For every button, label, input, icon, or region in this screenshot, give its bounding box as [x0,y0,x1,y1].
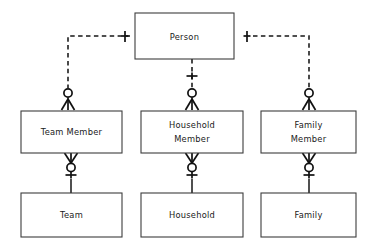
cardinality-zero-or-many-marker-team-member [62,89,75,110]
entity-label-person: Person [170,32,199,42]
entity-box-household-member [141,111,243,153]
entity-label-household: Household [169,210,215,220]
cardinality-zero-or-many-marker-team-member-bottom [65,153,78,172]
entity-household-member[interactable]: Household Member [141,111,243,153]
diagram-canvas: Person Team Member Household Member Fami… [0,0,377,249]
cardinality-one-marker-family [304,172,315,179]
relationship-team-member-team[interactable] [65,153,78,193]
entity-label-household-member-line2: Member [174,134,210,144]
cardinality-one-marker-household [187,172,198,179]
entity-label-family: Family [294,210,322,220]
entity-label-household-member-line1: Household [169,120,215,130]
relationship-person-household-member[interactable] [186,59,199,110]
connector-line-person-team-member [68,36,130,88]
entity-team-member[interactable]: Team Member [21,111,122,153]
entity-household[interactable]: Household [141,193,243,237]
relationship-household-member-household[interactable] [186,153,199,193]
connector-line-person-family-member [253,36,309,88]
entity-label-family-member-line2: Member [291,134,327,144]
cardinality-one-marker-person-bottom [187,73,198,80]
cardinality-zero-or-many-marker-household-member [186,89,199,110]
relationship-person-family-member[interactable] [244,31,316,110]
entity-family[interactable]: Family [261,193,356,237]
cardinality-zero-or-many-marker-family-member-bottom [303,153,316,172]
cardinality-zero-or-many-marker-household-member-bottom [186,153,199,172]
er-diagram: Person Team Member Household Member Fami… [0,0,377,249]
entity-label-team: Team [59,210,83,220]
entity-label-family-member-line1: Family [294,120,322,130]
entity-box-family-member [261,111,356,153]
cardinality-one-marker-person-left [122,31,129,42]
relationship-person-team-member[interactable] [62,31,131,110]
cardinality-one-marker-team [66,172,77,179]
relationship-family-member-family[interactable] [303,153,316,193]
entity-family-member[interactable]: Family Member [261,111,356,153]
cardinality-one-marker-person-right [244,31,251,42]
cardinality-zero-or-many-marker-family-member [303,89,316,110]
entity-team[interactable]: Team [21,193,122,237]
entity-label-team-member: Team Member [40,127,103,137]
entity-person[interactable]: Person [135,13,234,59]
